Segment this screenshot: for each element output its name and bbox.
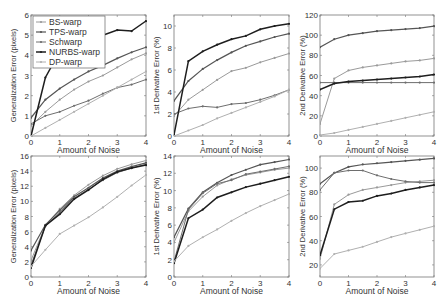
data-point-marker	[87, 80, 89, 82]
data-point-marker	[245, 67, 247, 69]
x-tick-label: 4	[287, 138, 292, 147]
data-point-marker	[274, 25, 276, 27]
data-point-marker	[245, 212, 247, 214]
data-point-marker	[230, 179, 232, 181]
data-point-marker	[30, 249, 32, 251]
data-point-marker	[390, 192, 392, 194]
data-point-marker	[419, 75, 421, 77]
x-axis-label: Amount of Noise	[200, 145, 263, 155]
data-point-marker	[173, 113, 175, 115]
data-point-marker	[230, 174, 232, 176]
data-point-marker	[319, 267, 321, 269]
data-point-marker	[216, 228, 218, 230]
legend-label: TPS-warp	[49, 27, 87, 37]
data-point-marker	[245, 102, 247, 104]
y-tick-label: 2	[168, 110, 173, 119]
data-point-marker	[59, 88, 61, 90]
data-point-marker	[288, 158, 290, 160]
data-point-marker	[202, 192, 204, 194]
data-point-marker	[433, 57, 435, 59]
data-point-marker	[30, 117, 32, 119]
data-point-marker	[87, 189, 89, 191]
data-point-marker	[319, 254, 321, 256]
data-point-marker	[187, 245, 189, 247]
y-tick-label: 0	[168, 132, 173, 141]
y-tick-label: 20	[309, 112, 318, 121]
y-tick-label: 8	[168, 204, 173, 213]
y-tick-label: 6	[25, 228, 30, 237]
data-point-marker	[102, 95, 104, 97]
data-point-marker	[390, 236, 392, 238]
data-point-marker	[390, 29, 392, 31]
axes-frame	[174, 15, 289, 136]
y-tick-label: 4	[25, 243, 30, 252]
x-tick-label: 0	[318, 279, 323, 288]
data-point-marker	[404, 117, 406, 119]
legend-label: NURBS-warp	[49, 47, 100, 57]
data-point-marker	[347, 129, 349, 131]
data-point-marker	[216, 44, 218, 46]
data-point-marker	[187, 99, 189, 101]
data-point-marker	[173, 241, 175, 243]
data-point-marker	[145, 46, 147, 48]
y-tick-label: 6	[25, 11, 30, 20]
data-point-marker	[404, 60, 406, 62]
data-point-marker	[202, 236, 204, 238]
data-point-marker	[73, 224, 75, 226]
data-point-marker	[404, 180, 406, 182]
data-point-marker	[362, 79, 364, 81]
y-tick-label: 60	[309, 213, 318, 222]
y-tick-label: 0	[168, 273, 173, 282]
data-point-marker	[333, 253, 335, 255]
data-point-marker	[73, 78, 75, 80]
data-point-marker	[333, 172, 335, 174]
data-point-marker	[390, 178, 392, 180]
data-point-marker	[102, 93, 104, 95]
data-point-marker	[59, 111, 61, 113]
data-point-marker	[259, 28, 261, 30]
data-point-marker	[274, 168, 276, 170]
y-tick-label: 1	[25, 112, 30, 121]
data-point-marker	[131, 51, 133, 53]
data-point-marker	[347, 169, 349, 171]
data-point-marker	[59, 99, 61, 101]
y-tick-label: 14	[20, 167, 29, 176]
data-point-marker	[274, 199, 276, 201]
y-tick-label: 4	[25, 51, 30, 60]
data-point-marker	[216, 59, 218, 61]
y-tick-label: 6	[168, 221, 173, 230]
data-point-marker	[376, 195, 378, 197]
data-point-marker	[245, 106, 247, 108]
x-tick-label: 4	[144, 279, 149, 288]
data-point-marker	[433, 225, 435, 227]
data-point-marker	[202, 124, 204, 126]
y-tick-label: 4	[168, 88, 173, 97]
data-point-marker	[202, 196, 204, 198]
data-point-marker	[347, 80, 349, 82]
data-point-marker	[131, 163, 133, 165]
y-tick-label: 14	[163, 152, 172, 161]
y-axis-label: 2nd Derivative Error (%)	[298, 176, 307, 257]
x-tick-label: 0	[172, 138, 177, 147]
data-point-marker	[274, 57, 276, 59]
data-point-marker	[59, 119, 61, 121]
data-point-marker	[333, 82, 335, 84]
data-point-marker	[216, 183, 218, 185]
y-axis-label: Generalization Error (pixels)	[9, 28, 18, 122]
subplot-2nd-deriv-top: 01234020406080100120Amount of Noise2nd D…	[298, 11, 437, 155]
data-point-marker	[419, 159, 421, 161]
data-point-marker	[288, 165, 290, 167]
data-point-marker	[102, 175, 104, 177]
axes-frame	[320, 15, 434, 136]
data-point-marker	[102, 74, 104, 76]
data-point-marker	[259, 205, 261, 207]
data-point-marker	[274, 179, 276, 181]
data-point-marker	[347, 34, 349, 36]
data-point-marker	[145, 164, 147, 166]
data-point-marker	[30, 123, 32, 125]
data-point-marker	[202, 105, 204, 107]
y-tick-label: 2	[168, 256, 173, 265]
data-point-marker	[333, 38, 335, 40]
subplot-gen-error-bottom: 012340246810121416Amount of NoiseGeneral…	[9, 152, 149, 296]
data-point-marker	[216, 79, 218, 81]
